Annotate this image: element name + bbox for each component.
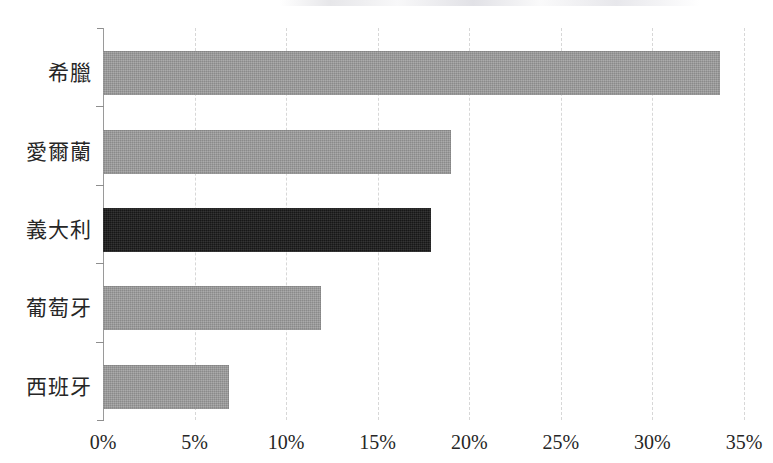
category-label-愛爾蘭: 愛爾蘭 [0,130,92,174]
bar-希臘 [103,51,720,95]
bar-愛爾蘭 [103,130,451,174]
x-tick-label-20%: 20% [424,430,514,454]
y-axis-cap-bottom [97,420,104,421]
bar-chart: 希臘愛爾蘭義大利葡萄牙西班牙 0%5%10%15%20%25%30%35% [0,0,773,463]
x-tick-label-10%: 10% [241,430,331,454]
y-axis-tick-1 [96,106,104,107]
scan-artifact [280,0,700,6]
y-axis-tick-3 [96,263,104,264]
category-label-西班牙: 西班牙 [0,365,92,409]
x-tick-label-0%: 0% [58,430,148,454]
x-tick-label-15%: 15% [333,430,423,454]
category-label-義大利: 義大利 [0,208,92,252]
bar-西班牙 [103,365,229,409]
y-axis-tick-4 [96,342,104,343]
bar-葡萄牙 [103,286,321,330]
gridline-35% [744,28,745,420]
x-tick-label-5%: 5% [150,430,240,454]
category-label-葡萄牙: 葡萄牙 [0,286,92,330]
x-tick-label-35%: 35% [699,430,773,454]
x-tick-label-30%: 30% [607,430,697,454]
x-tick-label-25%: 25% [516,430,606,454]
bar-義大利 [103,208,431,252]
y-axis-tick-2 [96,185,104,186]
category-label-希臘: 希臘 [0,51,92,95]
plot-area [103,28,744,420]
